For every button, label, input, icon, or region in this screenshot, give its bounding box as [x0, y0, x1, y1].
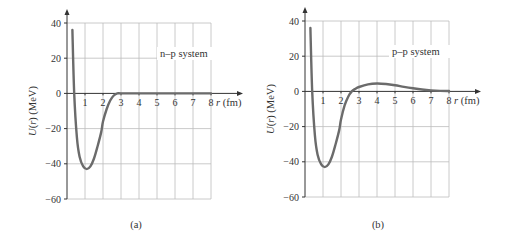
x-tick-label: 2 — [339, 95, 344, 106]
x-tick-label: 4 — [375, 95, 380, 106]
y-tick-label: 40 — [289, 16, 299, 27]
y-axis-arrow-icon — [65, 9, 70, 15]
y-tick-label: 40 — [51, 18, 61, 29]
y-axis-label: U(r) (MeV) — [27, 86, 39, 136]
y-tick-label: −20 — [283, 121, 299, 132]
y-tick-label: 20 — [289, 51, 299, 62]
x-tick-label: 1 — [83, 97, 88, 108]
panel-b: 1234567840200−20−40−60 p–p system r (fm)… — [265, 7, 481, 231]
y-tick-label: −40 — [283, 156, 299, 167]
y-tick-label: −60 — [283, 192, 299, 203]
system-annotation: p–p system — [392, 46, 440, 57]
system-annotation: n–p system — [160, 48, 208, 59]
x-tick-label: 3 — [357, 95, 362, 106]
tick-labels: 1234567840200−20−40−60 — [45, 18, 213, 205]
y-tick-label: 0 — [56, 88, 61, 99]
y-tick-label: −40 — [45, 158, 61, 169]
x-tick-label: 7 — [429, 95, 434, 106]
x-axis-label: r (fm) — [216, 97, 242, 109]
x-tick-label: 3 — [119, 97, 124, 108]
panel-label: (a) — [130, 219, 142, 231]
y-tick-label: −20 — [45, 123, 61, 134]
y-axis-arrow-icon — [303, 7, 308, 13]
tick-labels: 1234567840200−20−40−60 — [283, 16, 451, 203]
y-tick-label: −60 — [45, 194, 61, 205]
x-tick-label: 4 — [137, 97, 142, 108]
x-tick-label: 2 — [101, 97, 106, 108]
x-tick-label: 6 — [173, 97, 178, 108]
y-tick-label: 0 — [294, 86, 299, 97]
x-tick-label: 8 — [209, 97, 214, 108]
y-axis-label: U(r) (MeV) — [265, 84, 277, 134]
y-tick-label: 20 — [51, 53, 61, 64]
panel-label: (b) — [372, 219, 385, 231]
panel-a: 1234567840200−20−40−60 n–p system r (fm)… — [27, 9, 243, 231]
x-tick-label: 6 — [411, 95, 416, 106]
figure: 1234567840200−20−40−60 n–p system r (fm)… — [0, 0, 506, 241]
x-axis-arrow-icon — [475, 89, 481, 94]
x-tick-label: 7 — [191, 97, 196, 108]
x-tick-label: 5 — [393, 95, 398, 106]
x-axis-arrow-icon — [237, 91, 243, 96]
x-tick-label: 8 — [447, 95, 452, 106]
x-tick-label: 1 — [321, 95, 326, 106]
x-tick-label: 5 — [155, 97, 160, 108]
x-axis-label: r (fm) — [454, 95, 480, 107]
